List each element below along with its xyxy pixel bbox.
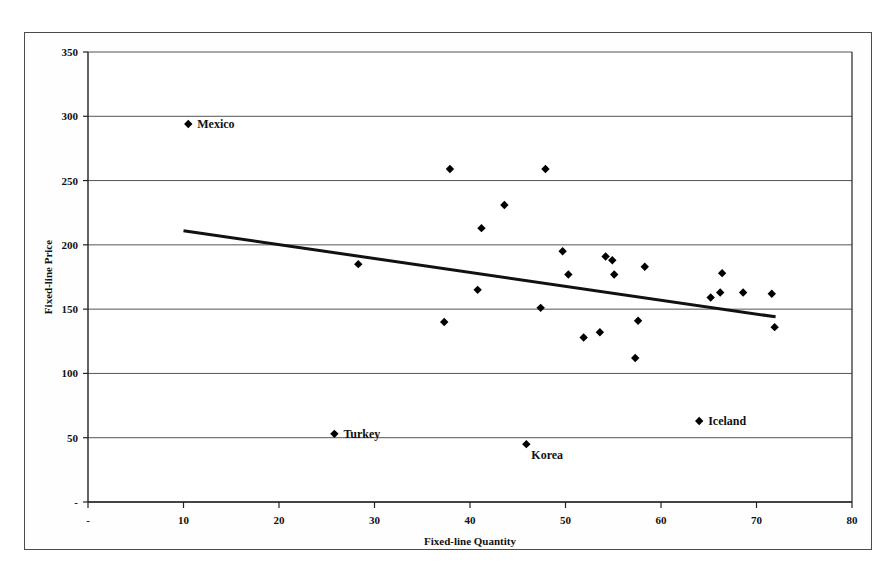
- x-tick-label: -: [86, 514, 90, 526]
- y-tick-label: -: [74, 496, 78, 508]
- x-tick-label: 30: [369, 514, 381, 526]
- x-tick-label: 10: [178, 514, 190, 526]
- x-axis-title: Fixed-line Quantity: [424, 535, 516, 547]
- x-tick-label: 70: [751, 514, 763, 526]
- y-tick-label: 300: [62, 110, 79, 122]
- data-point-label: Korea: [531, 448, 563, 462]
- y-axis-title: Fixed-line Price: [42, 240, 54, 314]
- y-tick-label: 50: [67, 432, 79, 444]
- x-axis-ticks: [88, 502, 852, 508]
- x-axis-tick-labels: -1020304050607080: [86, 514, 858, 526]
- x-tick-label: 40: [465, 514, 477, 526]
- x-tick-label: 80: [847, 514, 859, 526]
- data-point-label: Iceland: [708, 414, 746, 428]
- x-tick-label: 60: [656, 514, 668, 526]
- x-tick-label: 20: [274, 514, 286, 526]
- y-tick-label: 200: [62, 239, 79, 251]
- y-axis-tick-labels: -50100150200250300350: [62, 46, 79, 508]
- data-point-label: Turkey: [343, 427, 380, 441]
- y-axis-ticks: [83, 52, 88, 502]
- scatter-chart: -50100150200250300350 -1020304050607080 …: [0, 0, 896, 587]
- y-tick-label: 350: [62, 46, 79, 58]
- x-tick-label: 50: [560, 514, 572, 526]
- figure-root: -50100150200250300350 -1020304050607080 …: [0, 0, 896, 587]
- y-tick-label: 100: [62, 367, 79, 379]
- y-tick-label: 150: [62, 303, 79, 315]
- data-point-label: Mexico: [197, 117, 234, 131]
- y-tick-label: 250: [62, 175, 79, 187]
